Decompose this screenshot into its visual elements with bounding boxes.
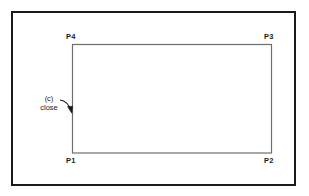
vertex-label-p1: P1 — [66, 157, 76, 165]
polygon-rectangle — [73, 45, 272, 154]
figure-caption-tag: (c) — [34, 94, 64, 103]
operation-annotation: (c) close — [34, 94, 64, 113]
operation-name: close — [34, 103, 64, 112]
pointer-arrowhead — [68, 106, 73, 113]
vertex-label-p2: P2 — [264, 157, 274, 165]
figure-container: P4 P3 P1 P2 (c) close — [0, 0, 309, 196]
vertex-label-p4: P4 — [66, 33, 76, 41]
vertex-label-p3: P3 — [264, 33, 274, 41]
